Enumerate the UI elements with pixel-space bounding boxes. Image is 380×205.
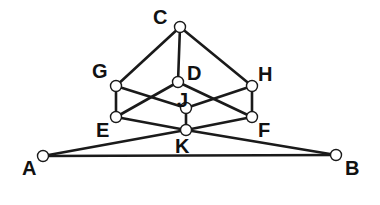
edge-d-e bbox=[116, 82, 178, 117]
node-g bbox=[111, 81, 122, 92]
node-label-h: H bbox=[258, 63, 272, 85]
node-c bbox=[175, 22, 186, 33]
node-label-d: D bbox=[187, 62, 201, 84]
node-label-b: B bbox=[345, 157, 359, 179]
node-label-k: K bbox=[175, 135, 190, 157]
edges-layer bbox=[43, 27, 336, 156]
node-h bbox=[247, 81, 258, 92]
node-a bbox=[38, 151, 49, 162]
node-label-g: G bbox=[92, 60, 108, 82]
node-label-a: A bbox=[22, 157, 36, 179]
node-f bbox=[247, 112, 258, 123]
node-label-c: C bbox=[153, 6, 167, 28]
edge-f-k bbox=[186, 117, 252, 130]
node-b bbox=[331, 150, 342, 161]
graph-diagram: CGDHJEFKAB bbox=[0, 0, 380, 205]
node-label-j: J bbox=[177, 89, 188, 111]
node-label-e: E bbox=[96, 119, 109, 141]
edge-a-b bbox=[43, 155, 336, 156]
edge-e-k bbox=[116, 117, 186, 130]
nodes-layer bbox=[38, 22, 342, 162]
edge-k-a bbox=[43, 130, 186, 156]
labels-layer: CGDHJEFKAB bbox=[22, 6, 359, 179]
edge-c-g bbox=[116, 27, 180, 86]
edge-c-d bbox=[178, 27, 180, 82]
node-k bbox=[181, 125, 192, 136]
node-label-f: F bbox=[258, 119, 270, 141]
node-d bbox=[173, 77, 184, 88]
node-e bbox=[111, 112, 122, 123]
